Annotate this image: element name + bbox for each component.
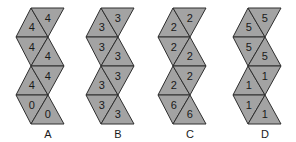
face-number: 4: [45, 50, 51, 62]
face-number: 5: [262, 12, 268, 24]
face-number: 3: [115, 108, 121, 120]
face-number: 1: [262, 108, 268, 120]
face-number: 6: [171, 99, 177, 111]
face-number: 3: [99, 41, 105, 53]
net-b: 33333333B: [86, 8, 134, 140]
face-number: 1: [262, 70, 268, 82]
face-number: 3: [115, 12, 121, 24]
net-label: D: [261, 128, 269, 140]
net-c: 22222266C: [158, 8, 206, 140]
octahedron-nets-figure: 44444400A33333333B22222266C55551111D: [0, 0, 296, 142]
face-number: 4: [29, 21, 35, 33]
net-label: B: [114, 128, 121, 140]
face-number: 2: [171, 79, 177, 91]
face-number: 6: [187, 108, 193, 120]
face-number: 3: [99, 99, 105, 111]
face-number: 5: [246, 41, 252, 53]
net-d: 55551111D: [233, 8, 281, 140]
face-number: 2: [187, 50, 193, 62]
face-number: 1: [246, 79, 252, 91]
net-label: C: [186, 128, 194, 140]
face-number: 2: [171, 21, 177, 33]
face-number: 4: [45, 70, 51, 82]
face-number: 0: [45, 108, 51, 120]
face-number: 3: [115, 70, 121, 82]
face-number: 5: [262, 50, 268, 62]
face-number: 3: [99, 21, 105, 33]
face-number: 5: [246, 21, 252, 33]
face-number: 2: [171, 41, 177, 53]
face-number: 0: [29, 99, 35, 111]
face-number: 3: [115, 50, 121, 62]
face-number: 4: [45, 12, 51, 24]
face-number: 4: [29, 41, 35, 53]
face-number: 2: [187, 12, 193, 24]
net-a: 44444400A: [16, 8, 64, 140]
face-number: 3: [99, 79, 105, 91]
face-number: 2: [187, 70, 193, 82]
net-label: A: [44, 128, 52, 140]
face-number: 1: [246, 99, 252, 111]
face-number: 4: [29, 79, 35, 91]
